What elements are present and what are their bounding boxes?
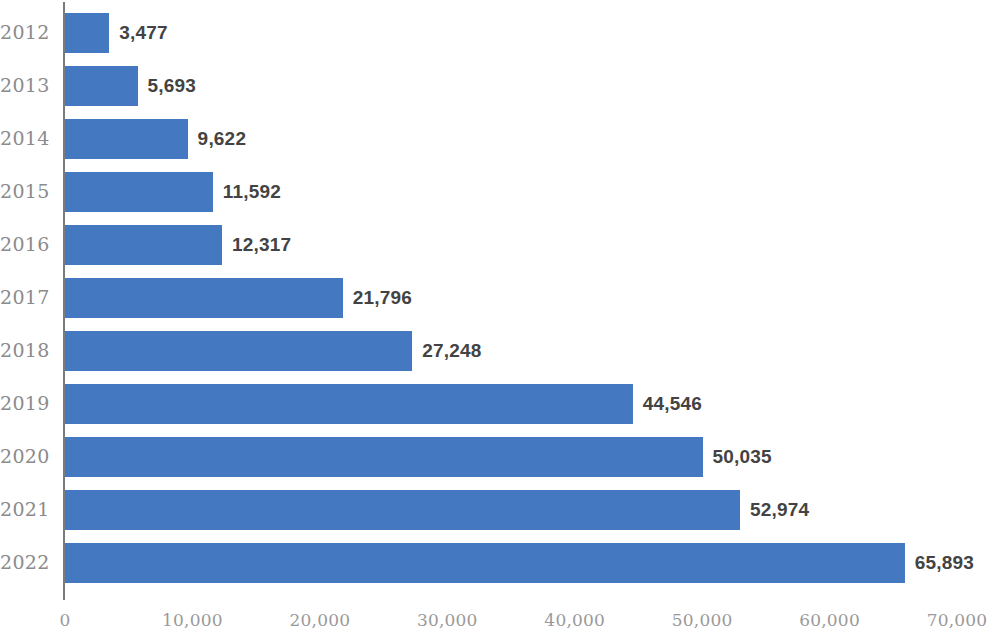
- bar[interactable]: [65, 490, 740, 530]
- bar-value-label: 3,477: [119, 13, 168, 53]
- bar[interactable]: [65, 119, 188, 159]
- x-tick-label: 70,000: [927, 610, 988, 630]
- bar[interactable]: [65, 384, 633, 424]
- bar-track: [65, 225, 222, 265]
- bar-row: 202050,035: [0, 430, 993, 483]
- category-label: 2019: [0, 377, 48, 430]
- category-label: 2014: [0, 112, 48, 165]
- category-label: 2020: [0, 430, 48, 483]
- bar[interactable]: [65, 66, 138, 106]
- bar[interactable]: [65, 278, 343, 318]
- bar-value-label: 52,974: [750, 490, 809, 530]
- bar-track: [65, 119, 188, 159]
- plot-area: 20123,47720135,69320149,622201511,592201…: [0, 0, 993, 604]
- category-label: 2015: [0, 165, 48, 218]
- bar-track: [65, 490, 740, 530]
- x-axis: 010,00020,00030,00040,00050,00060,00070,…: [0, 604, 993, 638]
- bar-row: 201612,317: [0, 218, 993, 271]
- bar-track: [65, 13, 109, 53]
- x-tick-label: 50,000: [672, 610, 733, 630]
- bar-track: [65, 172, 213, 212]
- category-label: 2016: [0, 218, 48, 271]
- bar-value-label: 11,592: [223, 172, 281, 212]
- bar-track: [65, 66, 138, 106]
- category-label: 2022: [0, 536, 48, 589]
- category-label: 2013: [0, 59, 48, 112]
- bar[interactable]: [65, 225, 222, 265]
- bar-track: [65, 543, 905, 583]
- bar-value-label: 27,248: [422, 331, 481, 371]
- bar-chart: 20123,47720135,69320149,622201511,592201…: [0, 0, 993, 638]
- bar-row: 20123,477: [0, 6, 993, 59]
- bar-value-label: 21,796: [353, 278, 412, 318]
- bar-row: 20135,693: [0, 59, 993, 112]
- bar-track: [65, 437, 703, 477]
- bar[interactable]: [65, 172, 213, 212]
- x-tick-label: 10,000: [162, 610, 223, 630]
- bar-track: [65, 384, 633, 424]
- bar-value-label: 65,893: [915, 543, 974, 583]
- bar-row: 20149,622: [0, 112, 993, 165]
- bar-track: [65, 278, 343, 318]
- bar-row: 202152,974: [0, 483, 993, 536]
- bar-value-label: 44,546: [643, 384, 702, 424]
- category-label: 2017: [0, 271, 48, 324]
- bar-value-label: 12,317: [232, 225, 291, 265]
- x-tick-label: 20,000: [290, 610, 351, 630]
- x-tick-label: 30,000: [417, 610, 478, 630]
- bar-row: 201511,592: [0, 165, 993, 218]
- x-tick-label: 0: [59, 610, 70, 630]
- bar[interactable]: [65, 543, 905, 583]
- bar-value-label: 9,622: [198, 119, 247, 159]
- bar-row: 201944,546: [0, 377, 993, 430]
- bar-row: 202265,893: [0, 536, 993, 589]
- bar-value-label: 5,693: [148, 66, 197, 106]
- bar-track: [65, 331, 412, 371]
- bar-row: 201827,248: [0, 324, 993, 377]
- bar-row: 201721,796: [0, 271, 993, 324]
- x-tick-label: 60,000: [799, 610, 860, 630]
- bar[interactable]: [65, 331, 412, 371]
- x-tick-label: 40,000: [544, 610, 605, 630]
- bar[interactable]: [65, 437, 703, 477]
- bar[interactable]: [65, 13, 109, 53]
- bar-value-label: 50,035: [713, 437, 772, 477]
- category-label: 2021: [0, 483, 48, 536]
- category-label: 2012: [0, 6, 48, 59]
- category-label: 2018: [0, 324, 48, 377]
